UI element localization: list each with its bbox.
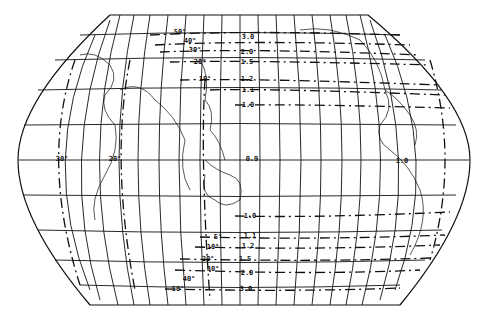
scale-label: 2.0 bbox=[241, 269, 254, 277]
scale-label: 1.5 bbox=[239, 255, 252, 263]
angle-label: 50° bbox=[174, 28, 187, 36]
angle-label: 40° bbox=[183, 275, 196, 283]
scale-label: 1.2 bbox=[241, 75, 254, 83]
scale-label: 0.9 bbox=[246, 155, 259, 163]
central-scale-labels: 3.0 2.0 1.5 1.2 1.1 1.0 0.9 1.0 1.1 1.2 … bbox=[239, 33, 259, 293]
angle-label: 30° bbox=[189, 46, 202, 54]
angle-label: 20° bbox=[202, 255, 215, 263]
scale-label: 1.2 bbox=[242, 242, 255, 250]
contour-lines bbox=[59, 33, 450, 301]
angle-label: 5° bbox=[214, 233, 222, 241]
angle-label: 20° bbox=[194, 58, 207, 66]
scale-label: 1.1 bbox=[242, 86, 255, 94]
angle-label: 10° bbox=[207, 243, 220, 251]
scale-label: 1.5 bbox=[241, 58, 254, 66]
scale-label: 3.0 bbox=[242, 33, 255, 41]
angle-label: 1.0 bbox=[396, 157, 409, 165]
angle-labels: 50° 40° 30° 20° 10° 30° 20° 1.0 5° 10° 2… bbox=[56, 28, 409, 293]
scale-label: 2.0 bbox=[241, 48, 254, 56]
angle-label: 50° bbox=[172, 285, 185, 293]
angle-label: 30° bbox=[56, 155, 69, 163]
angle-label: 10° bbox=[199, 75, 212, 83]
scale-label: 1.0 bbox=[244, 212, 257, 220]
scale-label: 1.0 bbox=[242, 101, 255, 109]
angle-label: 20° bbox=[109, 155, 122, 163]
angle-label: 40° bbox=[184, 37, 197, 45]
scale-label: 1.1 bbox=[244, 232, 257, 240]
angle-label: 30° bbox=[207, 265, 220, 273]
scale-label: 3.0 bbox=[240, 285, 253, 293]
world-map: 3.0 2.0 1.5 1.2 1.1 1.0 0.9 1.0 1.1 1.2 … bbox=[0, 0, 477, 321]
